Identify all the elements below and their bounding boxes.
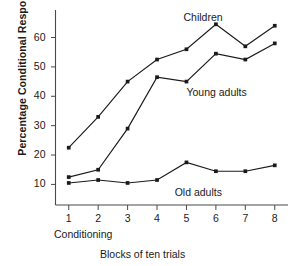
data-point-marker — [185, 47, 189, 51]
series-line-young-adults — [69, 43, 275, 177]
y-tick-label: 10 — [20, 177, 46, 189]
x-tick-label: 3 — [120, 212, 136, 224]
x-tick-label: 8 — [267, 212, 283, 224]
data-point-marker — [155, 75, 159, 79]
series-label-children: Children — [184, 11, 223, 23]
data-point-marker — [67, 181, 71, 185]
y-tick-label: 50 — [20, 60, 46, 72]
data-point-marker — [96, 115, 100, 119]
series-label-young-adults: Young adults — [186, 86, 246, 98]
data-point-marker — [96, 168, 100, 172]
series-markers — [67, 22, 277, 184]
y-tick-label: 40 — [20, 89, 46, 101]
data-point-marker — [126, 181, 130, 185]
y-tick-label: 20 — [20, 148, 46, 160]
tick-marks — [51, 38, 275, 210]
series-label-old-adults: Old adults — [175, 186, 222, 198]
data-point-marker — [214, 169, 218, 173]
data-point-marker — [214, 52, 218, 56]
data-point-marker — [273, 24, 277, 28]
data-point-marker — [273, 163, 277, 167]
x-tick-label: 4 — [149, 212, 165, 224]
x-tick-label: 1 — [61, 212, 77, 224]
data-point-marker — [185, 80, 189, 84]
data-point-marker — [185, 161, 189, 165]
data-point-marker — [126, 80, 130, 84]
x-tick-label: 2 — [90, 212, 106, 224]
y-tick-label: 30 — [20, 119, 46, 131]
x-axis-title: Blocks of ten trials — [100, 248, 185, 260]
chart-figure: Percentage Conditional Responses 1020304… — [0, 0, 294, 266]
x-tick-label: 6 — [208, 212, 224, 224]
data-point-marker — [155, 178, 159, 182]
data-point-marker — [96, 178, 100, 182]
data-point-marker — [126, 127, 130, 131]
data-point-marker — [243, 58, 247, 62]
x-tick-label: 7 — [237, 212, 253, 224]
data-point-marker — [273, 42, 277, 46]
data-point-marker — [243, 44, 247, 48]
axes — [56, 10, 289, 205]
data-point-marker — [155, 58, 159, 62]
data-point-marker — [67, 146, 71, 150]
x-tick-label: 5 — [178, 212, 194, 224]
data-point-marker — [243, 169, 247, 173]
data-point-marker — [67, 175, 71, 179]
conditioning-label: Conditioning — [54, 228, 112, 240]
y-tick-label: 60 — [20, 31, 46, 43]
